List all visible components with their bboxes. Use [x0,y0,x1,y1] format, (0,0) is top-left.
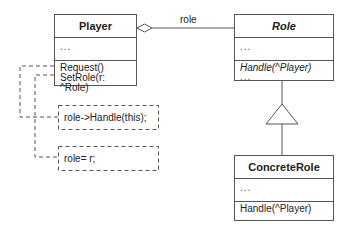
class-concrete-role-attributes: ... [235,179,333,202]
aggregation-diamond-icon [137,24,152,32]
class-player-operations: Request() SetRole(r: ^Role) [55,61,136,93]
association-role-label: role [180,14,197,25]
class-player-attributes: ... [55,38,136,61]
operation-more: ... [240,214,333,222]
class-role-operations: Handle(^Player) ... [235,61,333,81]
class-player: Player ... Request() SetRole(r: ^Role) [54,14,137,86]
operation-handle: Handle(^Player) [240,63,333,73]
class-role-attributes: ... [235,38,333,61]
class-concrete-role-operations: Handle(^Player) ... [235,202,333,222]
class-concrete-role: ConcreteRole ... Handle(^Player) ... [234,155,334,221]
class-player-name: Player [55,15,136,38]
class-role: Role ... Handle(^Player) ... [234,14,334,81]
note-connector-request [20,66,58,117]
inheritance-triangle-icon [266,104,298,124]
operation-handle: Handle(^Player) [240,204,333,214]
class-concrete-role-name: ConcreteRole [235,156,333,179]
note-handle: role->Handle(this); [58,105,159,130]
operation-more: ... [240,73,333,81]
note-assign: role= r; [58,146,159,171]
operation-setrole: SetRole(r: ^Role) [60,73,136,93]
class-role-name: Role [235,15,333,38]
